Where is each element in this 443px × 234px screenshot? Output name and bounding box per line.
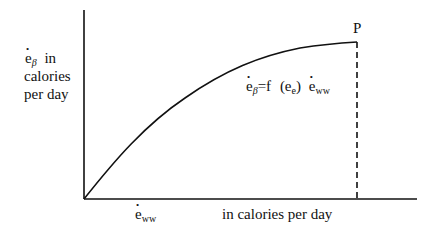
equation-rhs-subscript: ww (315, 85, 329, 96)
equation-arg-close: ) (296, 78, 301, 94)
y-axis-symbol: e (25, 50, 32, 67)
x-axis-subscript: ww (142, 213, 156, 224)
x-axis-symbol-label: eww (135, 206, 156, 227)
point-p-label: P (353, 20, 361, 37)
diagram-canvas (0, 0, 443, 234)
equation-arg-open: (e (280, 78, 292, 94)
x-axis-unit-label: in calories per day (222, 206, 332, 223)
x-axis-symbol: e (135, 206, 142, 223)
equation-lhs-symbol: e (246, 78, 253, 95)
equation-equals-f: =f (258, 78, 271, 94)
y-axis-subscript: β (32, 57, 37, 68)
y-axis-label-line3: per day (24, 86, 69, 103)
curve (84, 42, 357, 199)
y-axis-label-line1: in (44, 50, 56, 66)
equation: eβ=f (ee) eww (246, 78, 330, 99)
y-axis-label-line2: calories (24, 68, 71, 85)
equation-rhs-symbol: e (309, 78, 316, 95)
